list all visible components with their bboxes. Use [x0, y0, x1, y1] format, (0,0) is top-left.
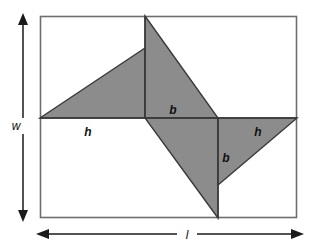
label-h-right: h	[254, 125, 261, 139]
label-b-lower: b	[222, 151, 229, 165]
label-l: l	[186, 228, 189, 242]
geometry-figure: h b b h w l	[0, 0, 335, 250]
lower-center-triangle	[145, 118, 218, 218]
upper-left-triangle	[40, 48, 145, 118]
length-arrowhead-left-icon	[36, 229, 49, 239]
width-arrowhead-up-icon	[18, 13, 28, 25]
length-arrowhead-right-icon	[291, 229, 304, 239]
label-w: w	[12, 119, 22, 133]
width-arrowhead-down-icon	[18, 210, 28, 222]
label-h-left: h	[84, 125, 91, 139]
upper-center-triangle	[145, 16, 218, 118]
label-b-upper: b	[169, 103, 176, 117]
